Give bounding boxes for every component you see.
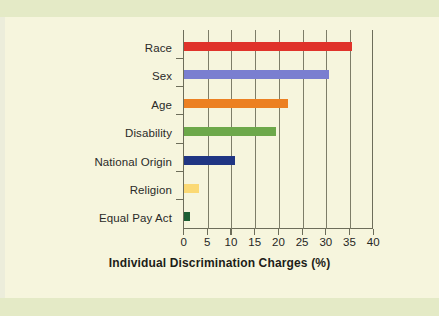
bar-row [184, 172, 372, 200]
x-tick-label-25: 25 [290, 236, 314, 248]
bar-row [184, 115, 372, 143]
x-tick-label-30: 30 [314, 236, 338, 248]
x-tick-label-0: 0 [172, 236, 196, 248]
bar-equal-pay-act[interactable] [184, 212, 190, 221]
x-tick-20 [278, 229, 279, 235]
y-label-equal-pay-act: Equal Pay Act [99, 212, 172, 224]
y-label-religion: Religion [130, 184, 172, 196]
bar-race[interactable] [184, 42, 352, 51]
x-tick-label-15: 15 [243, 236, 267, 248]
bar-row [184, 87, 372, 115]
x-tick-35 [349, 229, 350, 235]
bar-sex[interactable] [184, 70, 329, 79]
x-tick-label-5: 5 [195, 236, 219, 248]
bar-row [184, 200, 372, 228]
x-tick-30 [325, 229, 326, 235]
y-label-age: Age [151, 99, 172, 111]
x-tick-label-40: 40 [361, 236, 385, 248]
bar-row [184, 58, 372, 86]
y-tick-mark [176, 171, 183, 172]
x-tick-40 [373, 229, 374, 235]
horizontal-bar-chart: Race Sex Age Disability National Origin … [0, 0, 439, 316]
y-axis-category-labels: Race Sex Age Disability National Origin … [40, 30, 178, 229]
plot-area [183, 30, 373, 229]
bar-row [184, 30, 372, 58]
bar-national-origin[interactable] [184, 156, 235, 165]
y-label-national-origin: National Origin [94, 156, 172, 168]
x-axis-title: Individual Discrimination Charges (%) [0, 256, 439, 270]
y-tick-mark [176, 114, 183, 115]
y-label-disability: Disability [125, 127, 172, 139]
bar-religion[interactable] [184, 184, 199, 193]
bar-disability[interactable] [184, 127, 276, 136]
y-tick-mark [176, 143, 183, 144]
x-tick-5 [207, 229, 208, 235]
y-tick-mark [176, 199, 183, 200]
y-label-race: Race [145, 42, 172, 54]
y-label-sex: Sex [152, 70, 172, 82]
bar-row [184, 144, 372, 172]
x-tick-0 [183, 229, 184, 235]
x-tick-15 [254, 229, 255, 235]
x-tick-label-20: 20 [266, 236, 290, 248]
x-tick-label-35: 35 [338, 236, 362, 248]
bar-age[interactable] [184, 99, 288, 108]
y-tick-mark [176, 58, 183, 59]
x-tick-10 [230, 229, 231, 235]
chart-screenshot: Race Sex Age Disability National Origin … [0, 0, 439, 316]
x-tick-label-10: 10 [219, 236, 243, 248]
x-tick-25 [302, 229, 303, 235]
y-tick-mark [176, 86, 183, 87]
